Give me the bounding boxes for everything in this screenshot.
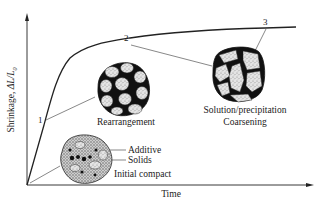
y-axis-label: Shrinkage, ΔL/L0 [6,67,18,132]
stage-point-2-label: 2 [124,34,129,43]
y-axis-label-subscript: 0 [12,67,18,70]
initial-compact-microstructure [61,135,112,183]
initial-compact-label: Initial compact [114,170,171,180]
x-axis-arrow-icon [306,183,314,187]
solids-label: Solids [128,156,152,166]
y-axis-label-prefix: Shrinkage, [6,89,16,132]
stage-point-1-label: 1 [38,116,43,125]
stage-point-3-label: 3 [263,18,268,27]
solution-precipitation-microstructure [213,47,265,102]
coarsening-label: Coarsening [223,118,266,128]
sintering-diagram: Shrinkage, ΔL/L0 Time 1 2 3 Rearrangemen… [0,0,323,209]
rearrangement-label: Rearrangement [97,118,155,128]
rearrangement-microstructure [98,63,150,116]
x-axis-label: Time [161,190,181,200]
solution-precipitation-label: Solution/precipitation [204,106,287,116]
y-axis-label-formula: ΔL/L [6,70,16,89]
y-axis [25,13,29,185]
y-axis-arrow-icon [25,13,29,21]
x-axis [27,183,314,187]
